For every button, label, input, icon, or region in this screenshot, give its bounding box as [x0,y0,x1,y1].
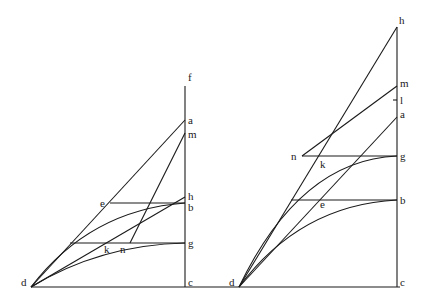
label-l: l [400,94,403,106]
label-a: a [400,108,405,120]
right-line-dh [239,27,397,287]
label-c: c [400,276,405,288]
label-e: e [320,198,325,210]
label-d: d [21,276,27,288]
label-k: k [104,243,110,255]
label-g: g [400,150,406,162]
label-g: g [188,237,194,249]
label-h: h [399,14,405,26]
label-d: d [229,276,235,288]
label-k: k [320,158,326,170]
label-n: n [120,243,126,255]
label-b: b [188,201,194,213]
left-figure: f a m h b g c d e k n [21,71,197,288]
label-b: b [400,194,406,206]
geometry-diagram: f a m h b g c d e k n h m l a g b c d e … [0,0,430,303]
label-m: m [188,128,197,140]
label-m: m [400,77,409,89]
left-line-dh [31,197,185,287]
label-a: a [188,114,193,126]
right-curve-dg [239,156,397,287]
right-figure: h m l a g b c d e k n [229,14,409,288]
right-line-nm [302,86,397,156]
label-f: f [188,71,192,83]
label-e: e [100,197,105,209]
label-c: c [188,276,193,288]
label-n: n [291,150,297,162]
